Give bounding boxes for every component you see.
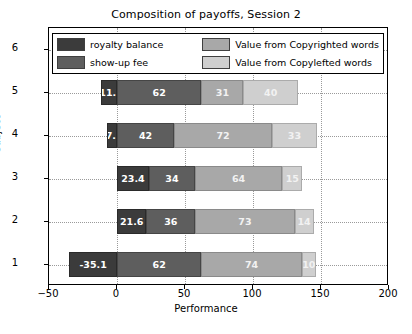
bar-segment: 23.4 [117,166,149,191]
bar-segment: 10 [302,252,316,277]
x-axis-tick-mark [116,285,117,289]
x-axis-tick-mark [48,285,49,289]
legend-label: royalty balance [90,39,163,50]
legend-swatch-icon [202,38,230,51]
x-axis-tick-label: −50 [18,288,78,299]
x-axis-tick-label: 100 [222,288,282,299]
bar-value-label: 42 [139,130,152,141]
bar-value-label: 64 [232,173,245,184]
y-axis-tick-mark [44,221,48,222]
bar-value-label: -35.1 [79,259,106,270]
bar-segment: 73 [195,209,294,234]
x-axis-tick-label: 200 [358,288,412,299]
bar-segment: -35.1 [69,252,117,277]
bar-value-label: -7.2 [107,130,117,141]
y-axis-tick-mark [44,178,48,179]
bar-value-label: 74 [245,259,258,270]
x-axis-label: Performance [0,303,412,314]
bar-value-label: 10 [302,259,315,270]
y-axis-tick-label: 5 [0,85,18,96]
bar-value-label: 34 [165,173,178,184]
bar-segment: 62 [117,252,201,277]
x-axis-tick-label: 50 [154,288,214,299]
bar-value-label: -11.7 [101,87,117,98]
x-axis-tick-mark [388,285,389,289]
bar-segment: 74 [201,252,302,277]
bar-segment: 42 [117,123,174,148]
y-axis-tick-label: 2 [0,214,18,225]
bar-value-label: 14 [298,216,311,227]
y-axis-label: subject [0,115,2,151]
bar-group: 23.4346415 [49,166,387,191]
bar-group: -11.7623140 [49,80,387,105]
bar-segment: 14 [295,209,314,234]
y-axis-tick-label: 6 [0,42,18,53]
x-axis-tick-mark [320,285,321,289]
y-axis-tick-mark [44,264,48,265]
bar-value-label: 23.4 [121,173,144,184]
legend-item-royalty-balance: royalty balance [57,38,202,51]
figure-canvas: Composition of payoffs, Session 2 -35.16… [0,0,412,334]
bar-value-label: 21.6 [120,216,143,227]
bar-segment: 15 [282,166,302,191]
bar-group: -7.2427233 [49,123,387,148]
bar-segment: 21.6 [117,209,146,234]
legend-label: Value from Copylefted words [235,57,372,68]
bar-group: -35.1627410 [49,252,387,277]
bar-segment: 62 [117,80,201,105]
bar-segment: 40 [243,80,297,105]
bar-value-label: 33 [288,130,301,141]
legend-swatch-icon [202,56,230,69]
chart-title: Composition of payoffs, Session 2 [0,8,412,21]
bar-segment: -11.7 [101,80,117,105]
x-axis-tick-label: 0 [86,288,146,299]
bar-value-label: 36 [164,216,177,227]
bar-group: 21.6367314 [49,209,387,234]
x-axis-tick-mark [184,285,185,289]
bar-segment: -7.2 [107,123,117,148]
legend-label: show-up fee [90,57,148,68]
legend-label: Value from Copyrighted words [235,39,379,50]
y-axis-tick-label: 1 [0,257,18,268]
bar-value-label: 62 [153,87,166,98]
legend-swatch-icon [57,38,85,51]
legend-item-show-up-fee: show-up fee [57,56,202,69]
chart-legend: royalty balance Value from Copyrighted w… [52,33,384,74]
y-axis-tick-mark [44,92,48,93]
bar-segment: 36 [146,209,195,234]
x-axis-tick-mark [252,285,253,289]
y-axis-tick-mark [44,49,48,50]
bar-segment: 31 [201,80,243,105]
bar-segment: 34 [149,166,195,191]
y-axis-tick-mark [44,135,48,136]
y-axis-tick-label: 4 [0,128,18,139]
y-axis-tick-label: 3 [0,171,18,182]
x-axis-tick-label: 150 [290,288,350,299]
bar-value-label: 31 [216,87,229,98]
bar-value-label: 15 [286,173,299,184]
legend-item-copyrighted: Value from Copyrighted words [202,38,379,51]
bar-value-label: 73 [238,216,251,227]
bar-segment: 72 [174,123,272,148]
bar-value-label: 72 [216,130,229,141]
bar-value-label: 62 [153,259,166,270]
bar-segment: 64 [195,166,282,191]
legend-item-copylefted: Value from Copylefted words [202,56,379,69]
bar-segment: 33 [272,123,317,148]
bar-value-label: 40 [264,87,277,98]
legend-swatch-icon [57,56,85,69]
